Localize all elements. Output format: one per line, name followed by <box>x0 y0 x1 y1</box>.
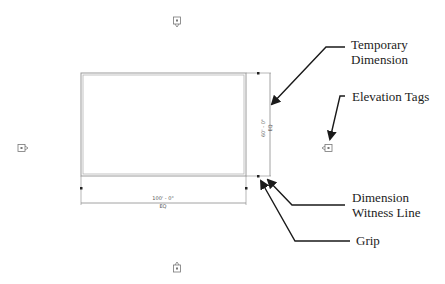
callout-text: Witness Line <box>352 205 420 220</box>
grip-handle[interactable] <box>80 187 83 190</box>
vertical-dimension-value[interactable]: 60' - 0" <box>260 119 266 137</box>
callout-elevation-tags: Elevation Tags <box>352 89 429 104</box>
vertical-eq-label[interactable]: EQ <box>267 124 273 131</box>
horizontal-eq-label[interactable]: EQ <box>159 203 166 209</box>
callout-text: Dimension <box>351 52 408 67</box>
elevation-tag-icon[interactable] <box>18 145 28 152</box>
vertical-temporary-dimension[interactable]: 60' - 0" EQ <box>246 73 273 176</box>
elevation-tag-icon[interactable] <box>174 262 181 272</box>
grip-handle[interactable] <box>257 175 260 178</box>
horizontal-temporary-dimension[interactable]: 100' - 0" EQ <box>81 176 246 209</box>
callout-leader-grip <box>261 181 350 241</box>
room-walls[interactable] <box>81 73 246 176</box>
callout-text: Grip <box>356 233 380 248</box>
grip-handle[interactable] <box>257 72 260 75</box>
callout-dimension-witness-line: Dimension Witness Line <box>352 190 420 220</box>
callout-text: Elevation Tags <box>352 89 429 104</box>
callout-leader-witness-line <box>268 180 345 205</box>
callout-temporary-dimension: Temporary Dimension <box>351 37 408 67</box>
elevation-tag-icon[interactable] <box>174 17 181 27</box>
grip-handle[interactable] <box>245 187 248 190</box>
horizontal-dimension-value[interactable]: 100' - 0" <box>152 195 173 201</box>
callout-text: Temporary <box>351 37 408 52</box>
elevation-tag-icon[interactable] <box>322 145 332 152</box>
callout-leader-elevation-tags <box>330 96 345 139</box>
callout-text: Dimension <box>352 190 420 205</box>
callout-leader-temporary-dimension <box>272 47 345 104</box>
callout-grip: Grip <box>356 233 380 248</box>
